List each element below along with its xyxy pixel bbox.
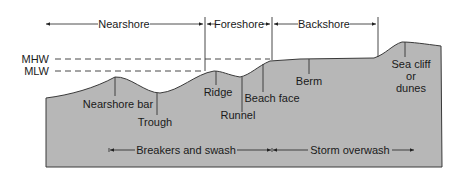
- zone-label-nearshore: Nearshore: [98, 18, 149, 30]
- feature-label-trough: Trough: [138, 116, 172, 128]
- feature-label-runnel: Runnel: [221, 109, 256, 121]
- water-level-label-mhw: MHW: [22, 53, 50, 65]
- zone-label-storm-overwash: Storm overwash: [310, 144, 389, 156]
- zone-label-foreshore: Foreshore: [214, 18, 264, 30]
- beach-profile-diagram: Nearshore Foreshore Backshore MHW MLW Ne…: [0, 0, 461, 180]
- feature-label-ridge: Ridge: [204, 86, 233, 98]
- zone-label-backshore: Backshore: [298, 18, 350, 30]
- feature-label-dunes: dunes: [396, 82, 426, 94]
- feature-label-nearshore-bar: Nearshore bar: [83, 98, 154, 110]
- water-level-label-mlw: MLW: [24, 65, 49, 77]
- feature-label-sea-cliff: Sea cliff: [392, 58, 432, 70]
- feature-label-or: or: [406, 70, 416, 82]
- zone-label-breakers-and-swash: Breakers and swash: [136, 144, 236, 156]
- feature-label-beach-face: Beach face: [244, 92, 299, 104]
- feature-label-berm: Berm: [296, 75, 322, 87]
